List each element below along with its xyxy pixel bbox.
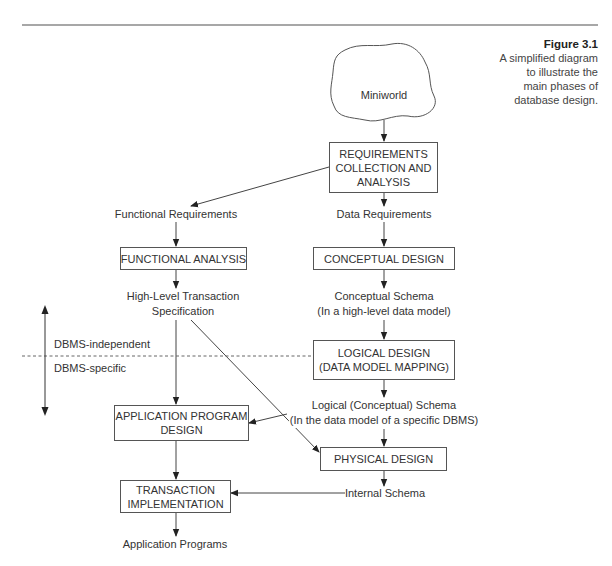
box-text: COLLECTION AND	[336, 161, 432, 175]
physical-design-box: PHYSICAL DESIGN	[320, 447, 447, 471]
high-level-spec-line2: Specification	[152, 304, 214, 319]
caption-line: to illustrate the	[500, 65, 598, 79]
box-text: PHYSICAL DESIGN	[334, 452, 433, 466]
figure-number: Figure 3.1	[500, 37, 598, 51]
internal-schema-label: Internal Schema	[345, 486, 425, 501]
box-text: ANALYSIS	[357, 175, 410, 189]
box-text: TRANSACTION	[136, 483, 215, 497]
box-text: (DATA MODEL MAPPING)	[319, 360, 449, 374]
box-text: FUNCTIONAL ANALYSIS	[121, 252, 246, 266]
caption-line: database design.	[500, 93, 598, 107]
application-program-design-box: APPLICATION PROGRAM DESIGN	[114, 405, 249, 441]
application-programs-label: Application Programs	[123, 537, 228, 552]
functional-requirements-label: Functional Requirements	[115, 207, 237, 222]
dbms-specific-label: DBMS-specific	[54, 361, 126, 375]
box-text: IMPLEMENTATION	[127, 497, 223, 511]
caption-line: main phases of	[500, 79, 598, 93]
high-level-spec-line1: High-Level Transaction	[127, 289, 240, 304]
conceptual-schema-line1: Conceptual Schema	[334, 289, 433, 304]
miniworld-label: Miniworld	[361, 88, 407, 103]
figure-caption: Figure 3.1 A simplified diagram to illus…	[500, 37, 598, 107]
miniworld-cloud-shape	[331, 43, 436, 121]
logical-design-box: LOGICAL DESIGN (DATA MODEL MAPPING)	[313, 340, 455, 380]
requirements-collection-box: REQUIREMENTS COLLECTION AND ANALYSIS	[329, 142, 438, 193]
caption-line: A simplified diagram	[500, 51, 598, 65]
box-text: APPLICATION PROGRAM	[116, 409, 248, 423]
functional-analysis-box: FUNCTIONAL ANALYSIS	[120, 247, 247, 270]
dbms-scope-double-arrow	[42, 305, 49, 416]
data-requirements-label: Data Requirements	[337, 207, 432, 222]
conceptual-schema-line2: (In a high-level data model)	[317, 304, 450, 319]
box-text: REQUIREMENTS	[339, 147, 428, 161]
box-text: CONCEPTUAL DESIGN	[324, 252, 444, 266]
transaction-implementation-box: TRANSACTION IMPLEMENTATION	[120, 480, 231, 513]
box-text: DESIGN	[160, 423, 202, 437]
logical-schema-line1: Logical (Conceptual) Schema	[312, 398, 456, 413]
conceptual-design-box: CONCEPTUAL DESIGN	[313, 247, 455, 270]
dbms-independent-label: DBMS-independent	[54, 337, 150, 351]
logical-schema-line2: (In the data model of a specific DBMS)	[289, 413, 479, 428]
box-text: LOGICAL DESIGN	[338, 346, 431, 360]
